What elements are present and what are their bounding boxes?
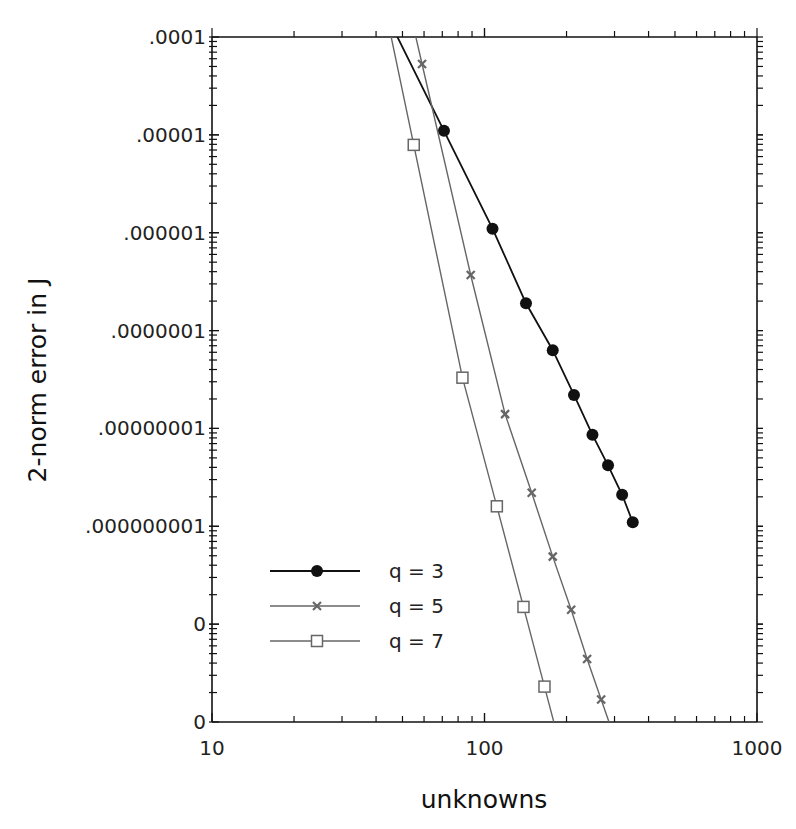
y-tick-label: 0: [193, 612, 206, 636]
legend: q = 3q = 5q = 7: [270, 559, 444, 653]
open-square-marker: [312, 636, 323, 647]
series-q7: [341, 0, 576, 806]
x-marker: [528, 489, 536, 497]
legend-item: q = 5: [270, 594, 444, 618]
open-square-marker: [457, 372, 468, 383]
y-axis-title: 2-norm error in J: [23, 278, 52, 483]
filled-circle-marker: [487, 223, 499, 235]
y-tick-label: .000000001: [85, 514, 206, 538]
open-square-marker: [539, 681, 550, 692]
filled-circle-marker: [586, 429, 598, 441]
chart-canvas: 101001000.0001.00001.000001.0000001.0000…: [0, 0, 796, 829]
x-tick-label: 10: [199, 736, 224, 760]
filled-circle-marker: [520, 297, 532, 309]
open-square-marker: [408, 139, 419, 150]
legend-item: q = 3: [270, 559, 444, 583]
y-tick-label: .00001: [136, 123, 206, 147]
ticks: [209, 28, 763, 722]
x-marker: [597, 695, 605, 703]
filled-circle-marker: [602, 459, 614, 471]
filled-circle-marker: [568, 389, 580, 401]
legend-label: q = 7: [389, 629, 444, 653]
series-line: [371, 0, 633, 522]
open-square-marker: [491, 501, 502, 512]
x-marker: [583, 655, 591, 663]
x-marker: [567, 606, 575, 614]
filled-circle-marker: [311, 565, 323, 577]
y-tick-label: .000001: [123, 221, 206, 245]
series-q3: [371, 0, 639, 528]
filled-circle-marker: [547, 344, 559, 356]
x-axis-title: unknowns: [421, 785, 548, 814]
legend-label: q = 3: [389, 559, 444, 583]
filled-circle-marker: [438, 125, 450, 137]
x-tick-label: 1000: [732, 736, 783, 760]
open-square-marker: [518, 601, 529, 612]
y-tick-label: .0001: [149, 25, 206, 49]
legend-label: q = 5: [389, 594, 444, 618]
axes-frame: [212, 37, 757, 722]
y-tick-label: 0: [193, 710, 206, 734]
legend-item: q = 7: [270, 629, 444, 653]
y-tick-label: .00000001: [98, 416, 206, 440]
x-tick-label: 100: [465, 736, 503, 760]
filled-circle-marker: [627, 516, 639, 528]
y-tick-label: .0000001: [111, 319, 206, 343]
filled-circle-marker: [616, 489, 628, 501]
x-marker: [549, 553, 557, 561]
